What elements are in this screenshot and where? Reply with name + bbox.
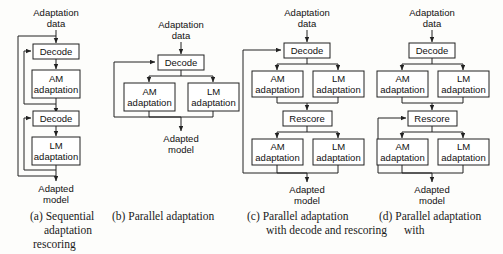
panel-c-block-am1-line2: adaptation [255, 84, 299, 95]
panel-d-output-label-line2: model [419, 195, 445, 206]
panel-d-block-am1-line1: AM [395, 73, 409, 84]
panel-a-input-label-line2: data [47, 18, 66, 29]
panel-a: Adaptation data Decode AM adaptation Dec… [18, 7, 80, 205]
panel-d-block-lm2-line1: LM [457, 141, 470, 152]
panel-b-block-decode-label: Decode [165, 57, 198, 68]
panel-d-block-lm2-line2: adaptation [441, 152, 485, 163]
panel-a-block-am-line1: AM [49, 73, 63, 84]
panel-c-block-am1-line1: AM [270, 73, 284, 84]
caption-a-line2: adaptation [44, 224, 92, 238]
caption-d-line1: (d) Parallel adaptation [379, 210, 481, 224]
panel-b-output-label-line2: model [168, 144, 194, 155]
panel-c-block-lm2-line1: LM [332, 141, 345, 152]
panel-b-block-lm-line2: adaptation [191, 97, 235, 108]
panel-d-input-label-line2: data [423, 18, 442, 29]
panel-b-input-label-line2: data [172, 30, 191, 41]
panel-d-block-rescore-label: Rescore [414, 113, 449, 124]
panel-a-block-decode-2-label: Decode [40, 113, 73, 124]
panel-c-block-lm2-line2: adaptation [316, 152, 360, 163]
panel-c-block-rescore-label: Rescore [289, 113, 324, 124]
panel-d-block-am1-line2: adaptation [380, 84, 424, 95]
panel-d-block-lm1-line1: LM [457, 73, 470, 84]
panel-d-block-am2-line2: adaptation [380, 152, 424, 163]
panel-d-block-decode-label: Decode [416, 45, 449, 56]
panel-a-block-lm-line2: adaptation [34, 151, 78, 162]
panel-b-block-am-line1: AM [142, 86, 156, 97]
panel-d-output-label-line1: Adapted [414, 184, 449, 195]
panel-c-input-label-line2: data [298, 18, 317, 29]
panel-d-block-am2-line1: AM [395, 141, 409, 152]
panel-b-block-lm-line1: LM [207, 86, 220, 97]
panel-c-block-lm1-line2: adaptation [316, 84, 360, 95]
caption-a-line1: (a) Sequential [30, 210, 94, 224]
panel-a-output-label-line2: model [43, 194, 69, 205]
panel-b-output-label-line1: Adapted [163, 133, 198, 144]
panel-d-block-lm1-line2: adaptation [441, 84, 485, 95]
panel-a-output-label-line1: Adapted [38, 183, 73, 194]
panel-b: Adaptation data Decode AM adaptation LM … [114, 19, 239, 155]
panel-c: Adaptation data Decode AM adaptation LM … [243, 7, 364, 206]
panel-c-block-lm1-line1: LM [332, 73, 345, 84]
panel-c-output-label-line2: model [294, 195, 320, 206]
caption-c-line1: (c) Parallel adaptation [247, 210, 349, 224]
panel-c-block-am2-line1: AM [270, 141, 284, 152]
panel-d: Adaptation data Decode AM adaptation LM … [377, 7, 489, 206]
panel-b-block-am-line2: adaptation [127, 97, 171, 108]
panel-a-block-decode-1-label: Decode [40, 46, 73, 57]
caption-b-line1: (b) Parallel adaptation [112, 210, 214, 224]
panel-a-block-am-line2: adaptation [34, 84, 78, 95]
panel-b-input-label-line1: Adaptation [158, 19, 203, 30]
caption-a-line3: rescoring [33, 238, 76, 252]
panel-c-input-label-line1: Adaptation [284, 7, 329, 18]
panel-a-block-lm-line1: LM [49, 140, 62, 151]
caption-d-line2: with [404, 224, 424, 238]
panel-c-block-decode-label: Decode [291, 45, 324, 56]
panel-c-block-am2-line2: adaptation [255, 152, 299, 163]
panel-a-input-label-line1: Adaptation [33, 7, 78, 18]
panel-c-output-label-line1: Adapted [289, 184, 324, 195]
caption-c-line2: with decode and rescoring [266, 224, 387, 238]
panel-d-input-label-line1: Adaptation [409, 7, 454, 18]
